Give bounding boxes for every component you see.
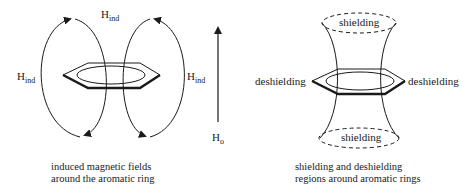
benzene-ring-right	[312, 69, 405, 94]
shielding-cone	[319, 13, 399, 148]
hind-label-right: Hind	[187, 70, 205, 87]
caption-left-line2: around the aromatic ring	[51, 173, 155, 185]
hind-label-top: Hind	[101, 8, 119, 25]
caption-left-line1: induced magnetic fields	[51, 161, 151, 173]
shielding-label-bottom: shielding	[341, 131, 381, 143]
caption-right-line1: shielding and deshielding	[295, 161, 402, 173]
benzene-ring-left	[63, 63, 160, 88]
hind-label-left: Hind	[17, 70, 35, 87]
deshielding-label-left: deshielding	[255, 75, 306, 87]
ho-label: Ho	[212, 131, 224, 148]
deshielding-label-right: deshielding	[408, 75, 459, 87]
shielding-label-top: shielding	[339, 16, 379, 28]
induced-field-loops	[41, 19, 184, 137]
caption-right-line2: regions around aromatic rings	[295, 173, 421, 185]
